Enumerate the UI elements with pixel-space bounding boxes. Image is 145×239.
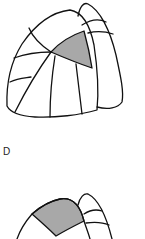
shaded-segment: [51, 31, 92, 68]
back-lobe-line-d-2: [86, 222, 109, 225]
lung-diagram-d: [0, 185, 145, 239]
segment-line-2: [14, 52, 51, 58]
panel-label-d: D: [3, 147, 10, 157]
segment-line-5: [50, 56, 55, 117]
segment-line-4: [15, 52, 51, 112]
lung-diagram-upper: [0, 0, 145, 120]
segment-line-6: [76, 64, 82, 114]
segment-line-3: [10, 77, 31, 82]
back-lobe-line-d-1: [84, 210, 102, 214]
